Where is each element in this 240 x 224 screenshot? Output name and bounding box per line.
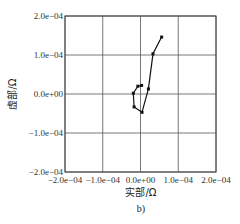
data-point-marker bbox=[160, 36, 163, 39]
y-tick-label: 1.0e−04 bbox=[34, 50, 64, 60]
data-point-marker bbox=[151, 52, 154, 55]
data-point-marker bbox=[133, 105, 136, 108]
data-point-marker bbox=[132, 92, 135, 95]
data-point-marker bbox=[141, 111, 144, 114]
impedance-chart: 2.0e−041.0e−040.0e+00−1.0e−04−2.0e−04 −2… bbox=[0, 0, 240, 224]
x-tick-label: −2.0e−04 bbox=[48, 175, 83, 185]
plot-grid bbox=[65, 16, 216, 172]
x-tick-label: −1.0e−04 bbox=[86, 175, 121, 185]
x-axis-ticks: −2.0e−04−1.0e−040.0e+001.0e−042.0e−04 bbox=[48, 175, 231, 185]
x-tick-label: 1.0e−04 bbox=[164, 175, 194, 185]
data-point-marker bbox=[140, 84, 143, 87]
data-point-marker bbox=[147, 87, 150, 90]
y-tick-label: 0.0e+00 bbox=[34, 89, 64, 99]
y-axis-label: 虚部/Ω bbox=[6, 78, 18, 109]
y-axis-ticks: 2.0e−041.0e−040.0e+00−1.0e−04−2.0e−04 bbox=[29, 11, 64, 177]
figure-caption: b) bbox=[137, 203, 145, 215]
y-tick-label: −1.0e−04 bbox=[29, 128, 64, 138]
data-point-marker bbox=[136, 85, 139, 88]
series-line bbox=[133, 37, 161, 112]
y-tick-label: 2.0e−04 bbox=[34, 11, 64, 21]
data-series bbox=[132, 36, 163, 114]
x-axis-label: 实部/Ω bbox=[125, 186, 156, 198]
x-tick-label: 2.0e−04 bbox=[201, 175, 231, 185]
x-tick-label: 0.0e+00 bbox=[126, 175, 156, 185]
